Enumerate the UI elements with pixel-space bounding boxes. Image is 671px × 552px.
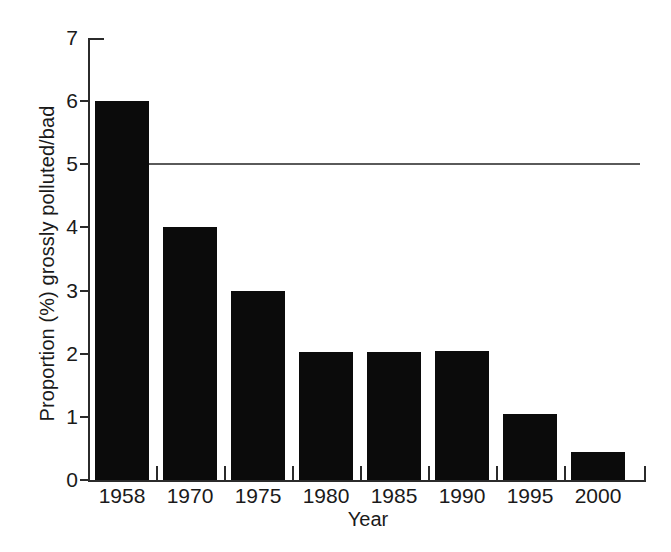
y-axis-top-cap [88, 38, 104, 40]
y-axis-tick-label: 4 [52, 216, 78, 237]
x-axis-label-1970: 1970 [157, 484, 223, 507]
x-axis-tick [292, 466, 294, 480]
x-axis-label-1958: 1958 [89, 484, 155, 507]
bar-1975 [231, 291, 285, 480]
x-axis-tick [156, 466, 158, 480]
bar-2000 [571, 452, 625, 480]
x-axis-tick [428, 466, 430, 480]
reference-line [149, 163, 640, 165]
y-axis-title: Proportion (%) grossly polluted/bad [36, 64, 59, 464]
y-axis-tick-label: 5 [52, 153, 78, 174]
y-axis-tick-label: 2 [52, 343, 78, 364]
y-axis-tick [80, 163, 90, 165]
x-axis-label-1985: 1985 [361, 484, 427, 507]
bar-1958 [95, 101, 149, 480]
y-axis-tick-label: 0 [52, 469, 78, 490]
x-axis-tick [564, 466, 566, 480]
y-axis-tick [80, 100, 90, 102]
x-axis-title: Year [88, 508, 648, 531]
y-axis-tick [80, 353, 90, 355]
bar-1980 [299, 352, 353, 480]
x-axis-tick [496, 466, 498, 480]
y-axis-tick [80, 226, 90, 228]
y-axis-tick [80, 290, 90, 292]
x-axis-tick [224, 466, 226, 480]
y-axis-tick-label: 6 [52, 90, 78, 111]
x-axis-label-2000: 2000 [565, 484, 631, 507]
bar-1995 [503, 414, 557, 480]
x-axis-end-tick [644, 466, 646, 482]
y-axis-tick-label: 7 [52, 27, 78, 48]
x-axis-label-1995: 1995 [497, 484, 563, 507]
bar-1985 [367, 352, 421, 480]
y-axis-tick [80, 416, 90, 418]
x-axis-label-1975: 1975 [225, 484, 291, 507]
y-axis-tick-label: 3 [52, 280, 78, 301]
y-axis-tick-label: 1 [52, 406, 78, 427]
bar-1970 [163, 227, 217, 480]
x-axis-label-1990: 1990 [429, 484, 495, 507]
x-axis-line [88, 480, 646, 482]
x-axis-tick [360, 466, 362, 480]
bar-1990 [435, 351, 489, 480]
x-axis-label-1980: 1980 [293, 484, 359, 507]
bar-chart: Proportion (%) grossly polluted/bad 0123… [0, 0, 671, 552]
